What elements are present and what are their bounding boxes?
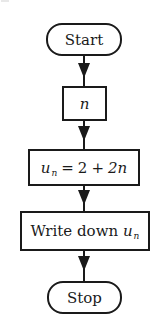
arrow-compute-to-output <box>78 186 90 212</box>
formula-constant: 2 <box>78 159 88 177</box>
compute-box: un = 2 + 2n <box>28 149 140 186</box>
formula-var: u <box>41 159 51 177</box>
stop-terminal: Stop <box>47 281 122 314</box>
input-box: n <box>62 86 107 121</box>
formula-plus: + <box>91 159 104 177</box>
start-label: Start <box>65 31 103 49</box>
input-variable: n <box>80 95 90 113</box>
formula-term: 2n <box>108 159 127 177</box>
formula-subscript: n <box>51 168 57 178</box>
arrow-input-to-compute <box>78 121 90 150</box>
output-box: Write down un <box>20 211 150 251</box>
arrow-start-to-input <box>78 55 90 87</box>
flowchart-canvas: Start n un = 2 + 2n Write down un Stop <box>0 0 160 326</box>
stop-label: Stop <box>67 289 102 307</box>
output-var: u <box>123 222 133 240</box>
output-text: Write down <box>31 222 119 240</box>
formula-equals: = <box>61 159 74 177</box>
arrow-output-to-stop <box>78 251 90 282</box>
output-subscript: n <box>134 231 140 241</box>
start-terminal: Start <box>46 23 122 56</box>
